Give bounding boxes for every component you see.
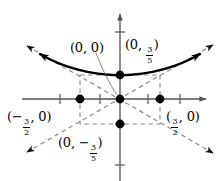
leader-layer [0, 0, 218, 181]
hyperbola-figure: (0, 0) (0, 35) (0, −35) (−32, 0) (32, 0) [0, 0, 218, 181]
leader-line-origin [96, 53, 118, 96]
